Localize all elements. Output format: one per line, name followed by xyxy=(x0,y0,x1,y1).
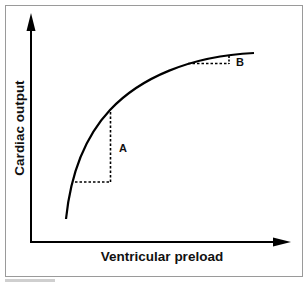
y-axis-label: Cardiac output xyxy=(12,80,27,175)
x-axis-arrow-icon xyxy=(273,238,291,247)
annotation-b-label: B xyxy=(236,56,244,68)
annotation-a-label: A xyxy=(119,142,127,154)
x-axis-label: Ventricular preload xyxy=(0,249,308,264)
y-axis-arrow-icon xyxy=(27,13,36,31)
chart-plot xyxy=(0,0,308,282)
frank-starling-curve xyxy=(66,53,254,219)
